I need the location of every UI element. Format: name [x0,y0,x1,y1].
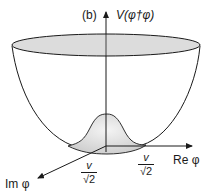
x-axis-label: Re φ [173,154,199,166]
tick-z-fraction: v √2 [79,160,99,185]
bowl-right-side [142,46,200,145]
panel-label: (b) [82,9,97,21]
y-axis-label: V(φ†φ) [116,9,154,21]
tick-x-fraction: v √2 [136,152,156,177]
z-axis-label: Im φ [5,178,29,190]
bowl-left-side [12,46,80,148]
potential-bump [68,114,146,154]
